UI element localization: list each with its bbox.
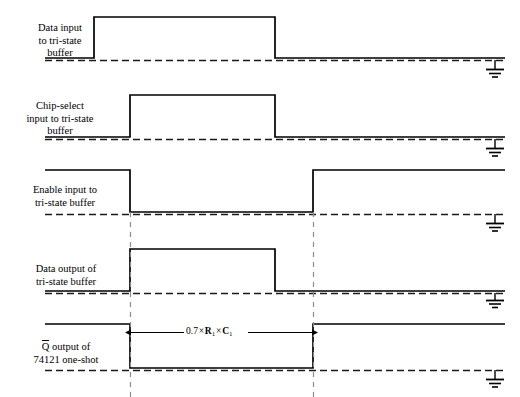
qbar-label-line2: 74121 one-shot [33, 354, 98, 365]
signal-row-data-input [45, 17, 505, 77]
ground-symbol-2 [486, 139, 504, 156]
ground-symbol-1 [486, 60, 504, 77]
waveform-data-input [45, 17, 505, 58]
signal-row-chip-select-input [45, 95, 505, 156]
signal-label-chip-select-input: Chip-select input to tri-state buffer [7, 100, 113, 138]
annotation-capacitor: C [222, 326, 229, 336]
annotation-coefficient: 0.7 [186, 326, 198, 336]
timing-diagram: Data input to tri-state buffer Chip-sele… [0, 0, 520, 397]
signal-label-data-input: Data input to tri-state buffer [15, 22, 105, 60]
annotation-resistor: R [205, 326, 212, 336]
ground-symbol-3 [486, 214, 504, 231]
signal-label-qbar-output: Q output of74121 one-shot [14, 340, 118, 366]
signal-label-enable-input: Enable input to tri-state buffer [12, 184, 118, 209]
annotation-multiply-1: × [199, 326, 204, 336]
qbar-label-rest: output of [49, 341, 90, 352]
annotation-capacitor-subscript: 1 [229, 330, 233, 338]
waveform-chip-select-input [45, 95, 505, 137]
annotation-multiply-2: × [216, 326, 221, 336]
pulse-width-annotation-label: 0.7 × R1 × C1 [184, 326, 235, 336]
signal-label-data-output: Data output of tri-state buffer [14, 263, 118, 288]
ground-symbol-4 [486, 293, 504, 308]
annotation-resistor-subscript: 1 [212, 330, 216, 338]
ground-symbol-5 [486, 370, 504, 387]
